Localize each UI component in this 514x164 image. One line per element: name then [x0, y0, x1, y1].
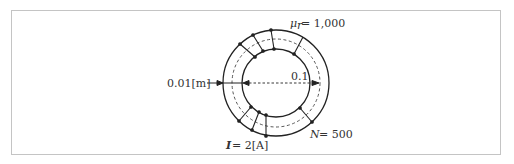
toroid-diagram: μ r = 1,000 0.01[m] 0.1 N = 500 I = 2[A]: [0, 0, 514, 164]
radius-label: 0.1: [291, 70, 309, 83]
permeability-value: = 1,000: [301, 17, 345, 30]
width-label: 0.01[m]: [167, 77, 211, 90]
current-value: = 2[A]: [232, 139, 268, 152]
width-dimension: [207, 81, 249, 86]
turns-value: = 500: [319, 128, 353, 141]
radius-dimension: [249, 81, 319, 86]
current-symbol: I: [225, 139, 232, 152]
